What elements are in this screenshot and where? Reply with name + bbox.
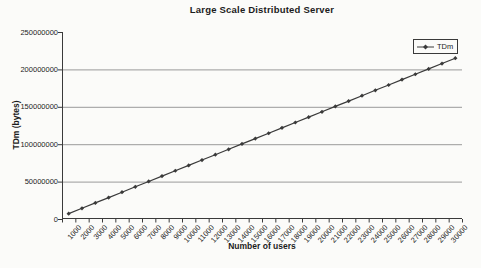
data-point-marker xyxy=(93,201,97,205)
legend-line-marker-icon xyxy=(417,43,434,51)
data-point-marker xyxy=(240,142,244,146)
legend: TDm xyxy=(413,39,458,54)
y-tick-label: 150000000 xyxy=(20,102,58,111)
data-point-marker xyxy=(320,110,324,114)
data-point-marker xyxy=(360,94,364,98)
data-point-marker xyxy=(347,99,351,103)
data-point-marker xyxy=(147,179,151,183)
data-point-marker xyxy=(200,158,204,162)
data-point-marker xyxy=(267,131,271,135)
data-point-marker xyxy=(453,56,457,60)
y-tick-label: 0 xyxy=(54,215,58,224)
data-point-marker xyxy=(160,174,164,178)
y-tick-label: 200000000 xyxy=(20,65,58,74)
data-point-marker xyxy=(400,78,404,82)
data-point-marker xyxy=(120,190,124,194)
chart-canvas: Large Scale Distributed Server 050000000… xyxy=(0,0,481,268)
plot-area xyxy=(62,32,462,219)
data-point-marker xyxy=(173,169,177,173)
data-point-marker xyxy=(333,104,337,108)
series-line xyxy=(69,58,456,213)
data-point-marker xyxy=(133,185,137,189)
y-tick-label: 100000000 xyxy=(20,140,58,149)
y-axis-title: TDm (bytes) xyxy=(11,100,21,149)
data-point-marker xyxy=(307,115,311,119)
legend-label: TDm xyxy=(437,42,453,51)
data-point-marker xyxy=(227,147,231,151)
data-point-marker xyxy=(213,153,217,157)
x-axis-title: Number of users xyxy=(62,241,462,251)
y-tick-label: 50000000 xyxy=(25,177,58,186)
data-point-marker xyxy=(293,120,297,124)
data-point-marker xyxy=(67,212,71,216)
data-point-marker xyxy=(387,83,391,87)
data-point-marker xyxy=(373,88,377,92)
data-point-marker xyxy=(413,72,417,76)
data-point-marker xyxy=(80,206,84,210)
chart-title: Large Scale Distributed Server xyxy=(62,4,462,15)
data-point-marker xyxy=(187,163,191,167)
data-point-marker xyxy=(280,126,284,130)
data-point-marker xyxy=(107,195,111,199)
data-point-marker xyxy=(253,136,257,140)
y-tick-label: 250000000 xyxy=(20,28,58,37)
data-point-marker xyxy=(440,61,444,65)
